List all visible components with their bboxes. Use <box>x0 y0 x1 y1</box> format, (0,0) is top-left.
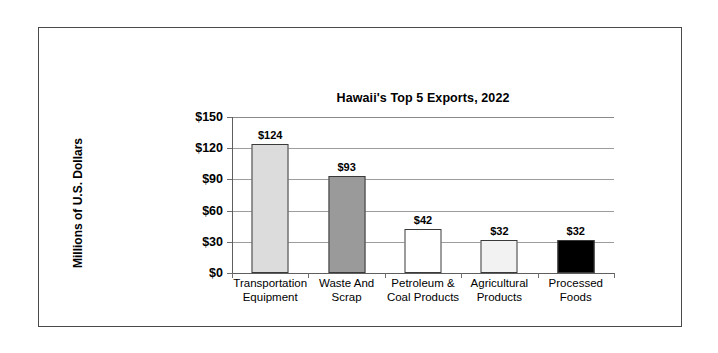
y-tick-label: $0 <box>209 266 223 280</box>
chart-page: Hawaii's Top 5 Exports, 2022 Millions of… <box>0 0 718 353</box>
category-label-line: Processed <box>532 277 620 291</box>
category-label: AgriculturalProducts <box>455 277 543 304</box>
bar-slot: $93 <box>308 117 384 273</box>
bar[interactable] <box>328 176 365 273</box>
category-label: Waste AndScrap <box>302 277 390 304</box>
bar-slot: $124 <box>232 117 308 273</box>
category-label-line: Coal Products <box>379 291 467 305</box>
y-tick-label: $150 <box>195 110 223 124</box>
category-label-line: Waste And <box>302 277 390 291</box>
bar[interactable] <box>557 240 594 273</box>
x-axis-line <box>232 273 614 274</box>
bar[interactable] <box>404 229 441 273</box>
y-tick-label: $120 <box>195 141 223 155</box>
category-label-line: Foods <box>532 291 620 305</box>
y-tick-label: $90 <box>202 172 223 186</box>
bar[interactable] <box>481 240 518 273</box>
category-label: TransportationEquipment <box>226 277 314 304</box>
bar-value-label: $32 <box>490 225 508 237</box>
category-label: ProcessedFoods <box>532 277 620 304</box>
bar-value-label: $124 <box>258 129 282 141</box>
category-label-line: Agricultural <box>455 277 543 291</box>
bar[interactable] <box>252 144 289 273</box>
chart-frame: Hawaii's Top 5 Exports, 2022 Millions of… <box>38 27 682 327</box>
category-label: Petroleum &Coal Products <box>379 277 467 304</box>
category-label-line: Products <box>455 291 543 305</box>
category-label-line: Transportation <box>226 277 314 291</box>
bar-value-label: $32 <box>567 225 585 237</box>
y-axis-title: Millions of U.S. Dollars <box>71 123 85 283</box>
bar-value-label: $42 <box>414 214 432 226</box>
plot-area: $150$120$90$60$30$0 $124$93$42$32$32 <box>232 117 614 273</box>
chart-title: Hawaii's Top 5 Exports, 2022 <box>232 91 614 105</box>
bar-slot: $32 <box>538 117 614 273</box>
category-label-line: Equipment <box>226 291 314 305</box>
x-axis-category-labels: TransportationEquipmentWaste AndScrapPet… <box>232 277 614 317</box>
bar-value-label: $93 <box>337 161 355 173</box>
category-label-line: Petroleum & <box>379 277 467 291</box>
bar-slot: $32 <box>461 117 537 273</box>
y-tick-label: $60 <box>202 204 223 218</box>
y-tick-label: $30 <box>202 235 223 249</box>
category-label-line: Scrap <box>302 291 390 305</box>
bar-slot: $42 <box>385 117 461 273</box>
